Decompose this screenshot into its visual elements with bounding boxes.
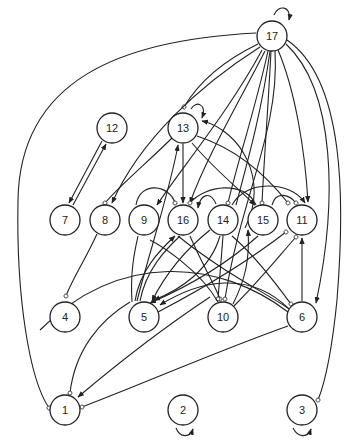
- node-6: 6: [287, 302, 317, 332]
- node-label: 14: [217, 214, 229, 226]
- node-3: 3: [287, 395, 317, 425]
- node-15: 15: [248, 205, 278, 235]
- edge-17-6: [286, 44, 329, 303]
- node-label: 3: [299, 404, 305, 416]
- self-loop-2: [176, 428, 193, 436]
- node-label: 4: [62, 311, 68, 323]
- node-label: 9: [141, 214, 147, 226]
- node-label: 15: [257, 214, 269, 226]
- node-label: 5: [141, 311, 147, 323]
- edge-12-7: [69, 141, 102, 203]
- edge-13-8: [105, 138, 172, 203]
- node-label: 10: [217, 311, 229, 323]
- node-16: 16: [168, 205, 198, 235]
- edge-9-16: [136, 188, 175, 205]
- edge-14-6: [232, 236, 291, 304]
- edge-15-11: [272, 195, 296, 205]
- node-11: 11: [287, 205, 317, 235]
- edge-16-10: [190, 236, 220, 299]
- node-8: 8: [90, 205, 120, 235]
- node-label: 6: [299, 311, 305, 323]
- node-label: 16: [177, 214, 189, 226]
- edge-17-10: [225, 51, 275, 299]
- node-13: 13: [168, 113, 198, 143]
- directed-graph: 1712137891614151145106123: [0, 0, 353, 443]
- node-label: 11: [296, 214, 307, 226]
- node-2: 2: [168, 395, 198, 425]
- node-label: 12: [106, 122, 118, 134]
- node-label: 13: [177, 122, 189, 134]
- edge-7-12: [73, 144, 106, 205]
- node-1: 1: [50, 395, 80, 425]
- edge-15-5: [150, 236, 258, 303]
- edge-17-11: [278, 50, 308, 202]
- node-10: 10: [208, 302, 238, 332]
- node-9: 9: [129, 205, 159, 235]
- edge-5-16: [135, 236, 175, 301]
- node-label: 2: [180, 404, 186, 416]
- edge-14-11: [232, 186, 305, 205]
- node-label: 17: [266, 30, 278, 42]
- edge-8-4: [66, 234, 97, 296]
- node-label: 1: [62, 404, 68, 416]
- node-4: 4: [50, 302, 80, 332]
- self-loop-3: [293, 428, 311, 436]
- self-loop-17: [274, 8, 289, 20]
- node-12: 12: [97, 113, 127, 143]
- edge-14-5: [152, 230, 210, 301]
- node-17: 17: [257, 21, 287, 51]
- node-5: 5: [129, 302, 159, 332]
- nodes-layer: 1712137891614151145106123: [50, 21, 317, 425]
- node-14: 14: [208, 205, 238, 235]
- node-label: 7: [62, 214, 68, 226]
- node-7: 7: [50, 205, 80, 235]
- edge-14-16: [198, 196, 216, 208]
- node-label: 8: [102, 214, 108, 226]
